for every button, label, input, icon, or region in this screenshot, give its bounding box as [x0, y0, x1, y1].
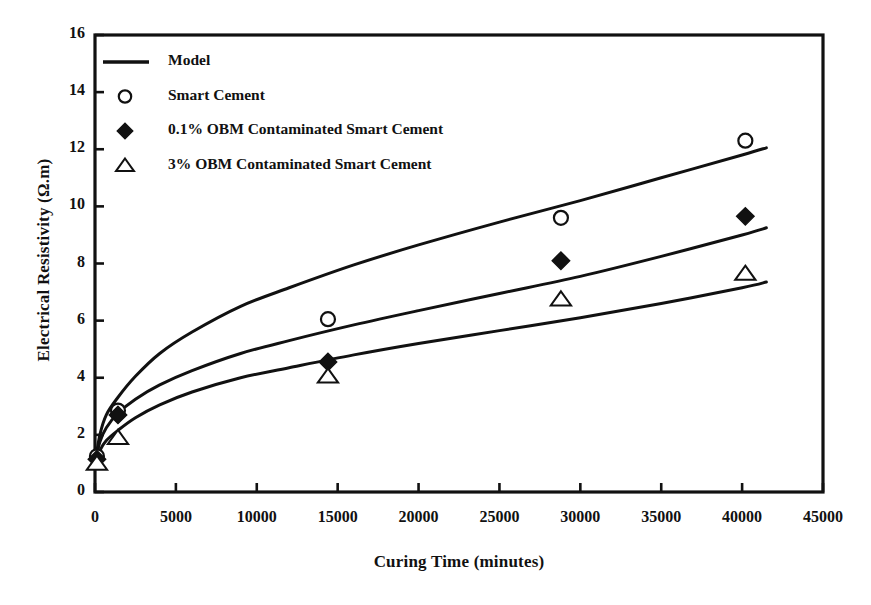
model-curves	[95, 148, 766, 464]
legend	[103, 62, 149, 171]
axes	[95, 35, 823, 492]
y-tick-label: 6	[45, 310, 85, 328]
marker-open-triangle	[735, 266, 755, 280]
chart-figure: Electrical Resistivity (Ω.m) Curing Time…	[0, 0, 871, 605]
x-tick-label: 40000	[707, 508, 777, 526]
legend-item-label: Smart Cement	[168, 86, 265, 104]
marker-open-triangle	[318, 368, 338, 382]
marker-open-circle	[321, 312, 335, 326]
legend-item-label: 3% OBM Contaminated Smart Cement	[168, 155, 431, 173]
model-curve	[95, 148, 766, 464]
x-tick-label: 15000	[303, 508, 373, 526]
x-tick-label: 25000	[464, 508, 534, 526]
legend-item-label: 0.1% OBM Contaminated Smart Cement	[168, 120, 443, 138]
axis-frame	[95, 35, 823, 492]
y-tick-label: 0	[45, 481, 85, 499]
marker-open-triangle	[116, 159, 134, 172]
marker-open-circle	[738, 134, 752, 148]
x-tick-label: 35000	[626, 508, 696, 526]
marker-open-circle	[554, 211, 568, 225]
legend-item-label: Model	[168, 51, 210, 69]
x-tick-label: 30000	[545, 508, 615, 526]
x-tick-label: 45000	[788, 508, 858, 526]
x-tick-label: 5000	[141, 508, 211, 526]
y-tick-label: 4	[45, 367, 85, 385]
y-tick-label: 8	[45, 253, 85, 271]
y-tick-label: 14	[45, 81, 85, 99]
y-tick-label: 16	[45, 24, 85, 42]
marker-open-triangle	[551, 291, 571, 305]
marker-filled-diamond	[737, 208, 755, 226]
y-tick-label: 2	[45, 424, 85, 442]
x-tick-label: 10000	[222, 508, 292, 526]
marker-open-circle	[119, 90, 131, 102]
marker-filled-diamond	[552, 252, 570, 269]
x-tick-label: 0	[60, 508, 130, 526]
y-tick-label: 10	[45, 195, 85, 213]
x-tick-label: 20000	[384, 508, 454, 526]
model-curve	[95, 228, 766, 464]
data-points	[87, 134, 756, 470]
marker-filled-diamond	[117, 123, 133, 139]
y-tick-label: 12	[45, 138, 85, 156]
